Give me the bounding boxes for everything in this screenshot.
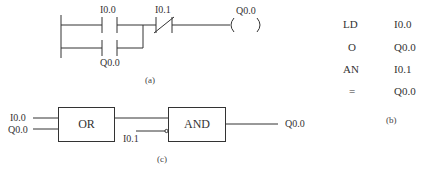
fbd-input-i00: I0.0: [10, 113, 26, 123]
il-op-3: AN: [343, 64, 359, 75]
diagram-lines: [0, 0, 422, 170]
coil-label: Q0.0: [236, 6, 256, 16]
contact-i01-slash: [154, 17, 174, 33]
il-operand-2: Q0.0: [394, 42, 416, 53]
il-operand-3: I0.1: [394, 64, 411, 75]
fbd-output-q00: Q0.0: [285, 119, 305, 129]
contact-q00-label: Q0.0: [100, 58, 120, 68]
fbd-input-q00: Q0.0: [8, 125, 28, 135]
contact-i01-label: I0.1: [155, 5, 171, 15]
fbd-input-i01: I0.1: [123, 134, 139, 144]
coil-left-arc: [231, 18, 234, 32]
caption-b: (b): [386, 116, 397, 125]
il-op-2: O: [348, 42, 356, 53]
il-operand-1: I0.0: [394, 19, 411, 30]
il-op-4: =: [349, 86, 355, 97]
il-op-1: LD: [343, 19, 358, 30]
il-operand-4: Q0.0: [394, 86, 416, 97]
contact-i00-label: I0.0: [100, 5, 116, 15]
and-label: AND: [184, 117, 210, 132]
and-block: AND: [168, 107, 226, 142]
caption-a: (a): [145, 76, 155, 85]
caption-c: (c): [157, 155, 167, 164]
or-block: OR: [58, 107, 115, 142]
or-label: OR: [78, 117, 95, 132]
coil-right-arc: [257, 18, 260, 32]
